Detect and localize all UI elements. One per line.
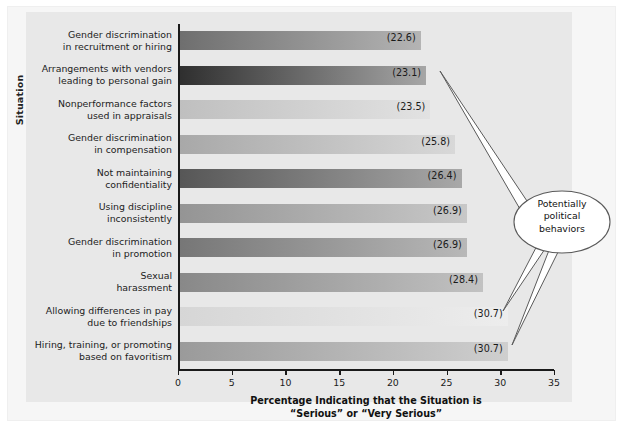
bar-value-label: (30.7)	[474, 308, 503, 319]
bar[interactable]	[178, 307, 508, 326]
category-label-line1: Allowing differences in pay	[46, 305, 172, 317]
x-tick-label: 10	[279, 377, 291, 388]
category-label-line1: Using discipline	[99, 201, 172, 213]
category-label-line1: Nonperformance factors	[58, 98, 172, 110]
callout-line-1: Potentially	[519, 198, 605, 210]
category-label: Using disciplineinconsistently	[26, 197, 178, 230]
bar-row: Using disciplineinconsistently(26.9)	[26, 197, 572, 230]
bar-value-label: (23.5)	[396, 101, 425, 112]
bar[interactable]	[178, 66, 426, 85]
bar-row: Gender discriminationin promotion(26.9)	[26, 231, 572, 264]
category-label: Hiring, training, or promotingbased on f…	[26, 335, 178, 368]
category-label-line2: in promotion	[112, 248, 172, 260]
category-label: Gender discriminationin promotion	[26, 231, 178, 264]
callout-label: Potentially political behaviors	[519, 198, 605, 235]
category-label: Allowing differences in paydue to friend…	[26, 300, 178, 333]
category-label-line1: Hiring, training, or promoting	[35, 339, 172, 351]
bar-value-label: (23.1)	[392, 67, 421, 78]
x-tick-label: 25	[441, 377, 453, 388]
bar-value-label: (26.4)	[428, 170, 457, 181]
bar-value-label: (28.4)	[449, 274, 478, 285]
x-tick-mark	[285, 370, 286, 375]
x-axis-title-line2: “Serious” or “Very Serious”	[178, 407, 554, 420]
bar[interactable]	[178, 31, 421, 50]
callout-line-3: behaviors	[519, 223, 605, 235]
category-label-line2: inconsistently	[107, 213, 172, 225]
category-label-line1: Gender discrimination	[68, 236, 172, 248]
category-label-line2: based on favoritism	[79, 351, 172, 363]
category-label-line2: in compensation	[94, 144, 172, 156]
category-label-line1: Arrangements with vendors	[42, 63, 172, 75]
bar-row: Nonperformance factorsused in appraisals…	[26, 93, 572, 126]
x-axis-line	[178, 369, 554, 371]
bar-row: Arrangements with vendorsleading to pers…	[26, 59, 572, 92]
category-label-line2: used in appraisals	[87, 110, 172, 122]
x-tick-label: 5	[229, 377, 235, 388]
bar-row: Not maintainingconfidentiality(26.4)	[26, 162, 572, 195]
bar[interactable]	[178, 238, 467, 257]
y-axis-title: Situation	[14, 45, 25, 155]
x-tick-label: 35	[548, 377, 560, 388]
x-axis-title: Percentage Indicating that the Situation…	[178, 394, 554, 420]
category-label-line2: in recruitment or hiring	[63, 41, 172, 53]
x-tick-mark	[178, 370, 179, 375]
category-label-line1: Gender discrimination	[68, 132, 172, 144]
category-label: Sexualharassment	[26, 266, 178, 299]
category-label-line1: Sexual	[141, 270, 172, 282]
bar-row: Gender discriminationin compensation(25.…	[26, 128, 572, 161]
bar-row: Allowing differences in paydue to friend…	[26, 300, 572, 333]
x-tick-mark	[393, 370, 394, 375]
x-tick-mark	[339, 370, 340, 375]
bar-value-label: (26.9)	[433, 205, 462, 216]
x-tick-label: 30	[494, 377, 506, 388]
category-label-line1: Gender discrimination	[68, 29, 172, 41]
category-label: Nonperformance factorsused in appraisals	[26, 93, 178, 126]
x-tick-mark	[554, 370, 555, 375]
bar-row: Sexualharassment(28.4)	[26, 266, 572, 299]
category-label-line2: confidentiality	[105, 179, 172, 191]
bar[interactable]	[178, 342, 508, 361]
category-label-line2: harassment	[116, 282, 172, 294]
category-label-line2: due to friendships	[87, 317, 172, 329]
bar[interactable]	[178, 169, 462, 188]
x-axis-title-line1: Percentage Indicating that the Situation…	[178, 394, 554, 407]
x-tick-mark	[500, 370, 501, 375]
bar-value-label: (26.9)	[433, 239, 462, 250]
bar-row: Hiring, training, or promotingbased on f…	[26, 335, 572, 368]
callout-line-2: political	[519, 210, 605, 222]
category-label: Gender discriminationin compensation	[26, 128, 178, 161]
bar-row: Gender discriminationin recruitment or h…	[26, 24, 572, 57]
category-label: Gender discriminationin recruitment or h…	[26, 24, 178, 57]
bar-value-label: (30.7)	[474, 343, 503, 354]
bar[interactable]	[178, 204, 467, 223]
category-label: Arrangements with vendorsleading to pers…	[26, 59, 178, 92]
x-tick-label: 15	[333, 377, 345, 388]
x-tick-mark	[447, 370, 448, 375]
category-label-line1: Not maintaining	[97, 167, 172, 179]
y-axis-line	[178, 24, 180, 370]
bar-value-label: (25.8)	[421, 136, 450, 147]
bar-value-label: (22.6)	[387, 32, 416, 43]
category-label-line2: leading to personal gain	[58, 75, 172, 87]
x-tick-mark	[232, 370, 233, 375]
bar[interactable]	[178, 273, 483, 292]
figure-bar-chart: Situation Gender discriminationin recrui…	[0, 0, 623, 439]
bar[interactable]	[178, 100, 430, 119]
x-tick-label: 0	[175, 377, 181, 388]
category-label: Not maintainingconfidentiality	[26, 162, 178, 195]
x-tick-label: 20	[387, 377, 399, 388]
bar[interactable]	[178, 135, 455, 154]
